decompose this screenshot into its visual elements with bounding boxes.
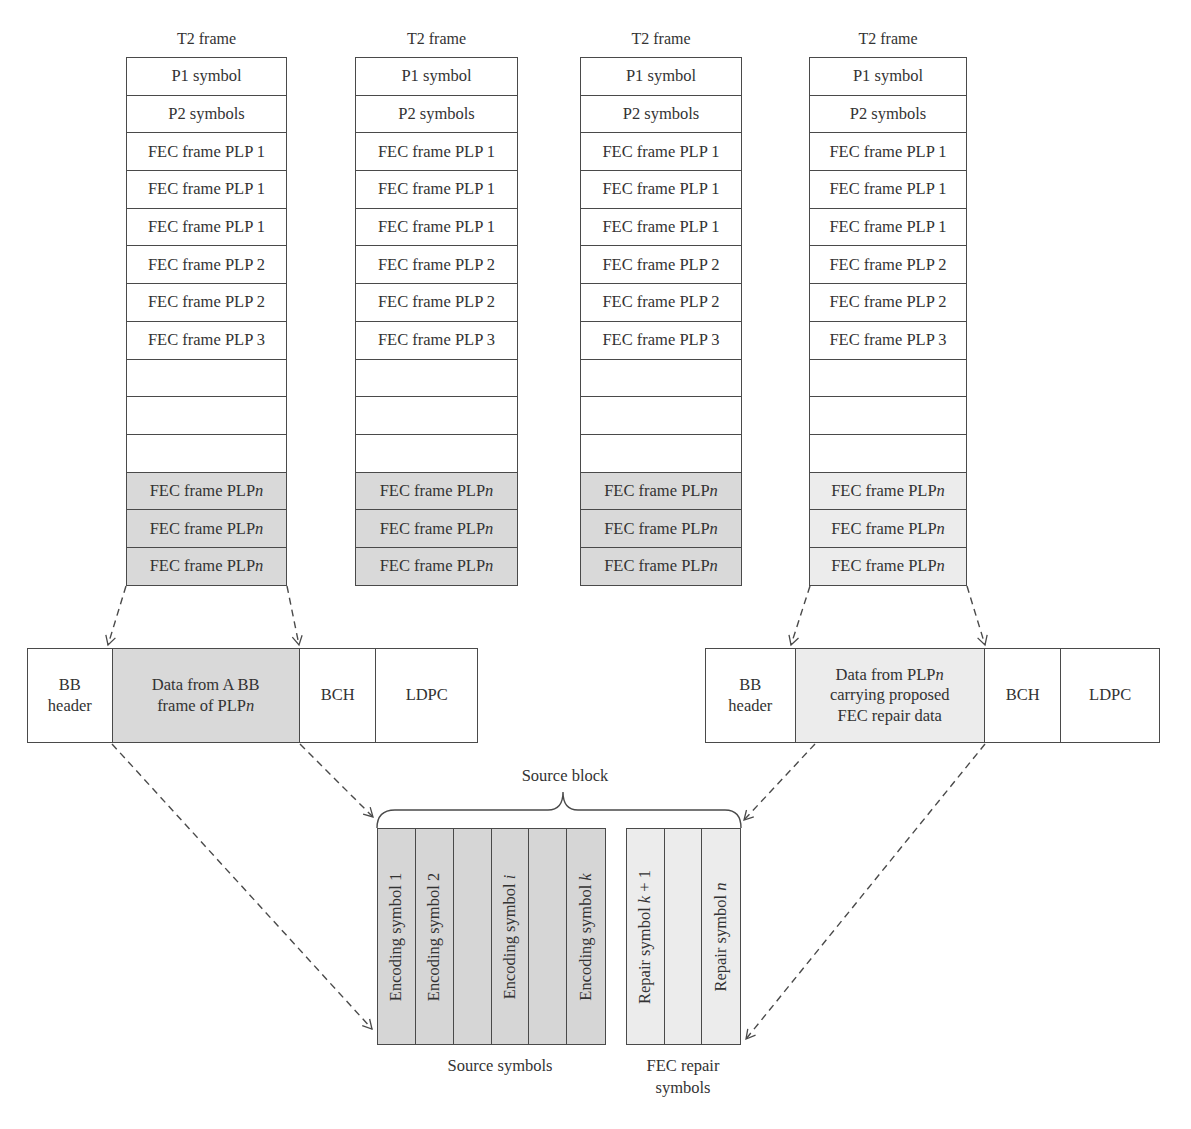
- cell-label: P1 symbol: [626, 66, 696, 86]
- t2-frame-empty-cell: [810, 397, 966, 435]
- t2-frame-cell: P1 symbol: [127, 58, 286, 96]
- t2-frame-cell: FEC frame PLPn: [127, 548, 286, 586]
- t2-frame-cell: FEC frame PLP 2: [810, 246, 966, 284]
- cell-label-suffix: n: [937, 556, 945, 576]
- source-symbol-k: Encoding symbol k: [567, 829, 605, 1044]
- cell-label: FEC frame PLP 2: [148, 292, 265, 312]
- cell-label: FEC frame PLP: [380, 519, 485, 539]
- repair-symbols-block: Repair symbol k + 1 Repair symbol n: [626, 828, 741, 1045]
- cell-label: FEC frame PLP 3: [602, 330, 719, 350]
- source-symbol-i: Encoding symbol i: [492, 829, 530, 1044]
- ldpc-cell: LDPC: [376, 649, 477, 742]
- t2-frame-cell: FEC frame PLP 2: [356, 284, 517, 322]
- bch-label: BCH: [1006, 685, 1040, 706]
- t2-frame-cell: FEC frame PLP 2: [127, 284, 286, 322]
- cell-label: FEC frame PLP: [150, 481, 255, 501]
- cell-label-suffix: n: [485, 556, 493, 576]
- t2-frame-empty-cell: [810, 360, 966, 398]
- source-symbol-label: Encoding symbol i: [500, 874, 520, 999]
- arrow-bb-right-to-repair-bottom: [746, 744, 985, 1039]
- cell-label: FEC frame PLP: [604, 556, 709, 576]
- arrow-bb-left-to-source-bottom: [112, 744, 372, 1029]
- t2-frame-empty-cell: [127, 360, 286, 398]
- t2-frame-cell: FEC frame PLP 1: [127, 171, 286, 209]
- cell-label: FEC frame PLP 1: [148, 217, 265, 237]
- t2-frame-cell: P2 symbols: [127, 96, 286, 134]
- source-symbol-label: Encoding symbol 1: [386, 872, 406, 1000]
- cell-label: P1 symbol: [171, 66, 241, 86]
- t2-frame-title-1: T2 frame: [126, 30, 287, 48]
- t2-frame-cell: FEC frame PLP 1: [810, 133, 966, 171]
- cell-label-suffix: n: [485, 481, 493, 501]
- t2-frame-cell: FEC frame PLP 3: [810, 322, 966, 360]
- cell-label: FEC frame PLP: [604, 481, 709, 501]
- cell-label: FEC frame PLP: [380, 481, 485, 501]
- bb-header-line1: BB: [739, 675, 761, 694]
- t2-frame-cell: FEC frame PLP 3: [127, 322, 286, 360]
- cell-label: FEC frame PLP 1: [378, 142, 495, 162]
- bb-data-line2: carrying proposed: [830, 685, 950, 704]
- t2-frame-cell: FEC frame PLPn: [810, 473, 966, 511]
- cell-label: FEC frame PLP 2: [378, 292, 495, 312]
- arrow-col4-left: [791, 586, 810, 645]
- t2-frame-empty-cell: [810, 435, 966, 473]
- t2-frame-cell: FEC frame PLPn: [810, 510, 966, 548]
- cell-label: FEC frame PLP: [831, 519, 936, 539]
- source-symbol-gap: [454, 829, 492, 1044]
- bb-frame-right: BBheader Data from PLPncarrying proposed…: [705, 648, 1160, 743]
- cell-label: FEC frame PLP 2: [378, 255, 495, 275]
- repair-symbol-k-plus-1: Repair symbol k + 1: [627, 829, 665, 1044]
- t2-frame-cell: FEC frame PLP 1: [356, 171, 517, 209]
- bb-data-line2: frame of PLP: [157, 696, 246, 715]
- source-symbol-label: Encoding symbol k: [576, 873, 596, 1000]
- cell-label: FEC frame PLP 2: [602, 255, 719, 275]
- arrow-col1-left: [108, 586, 126, 645]
- arrow-col1-right: [287, 586, 299, 645]
- ldpc-label: LDPC: [1089, 685, 1131, 706]
- t2-frame-cell: P2 symbols: [356, 96, 517, 134]
- source-symbol-1: Encoding symbol 1: [378, 829, 416, 1044]
- cell-label: FEC frame PLP 1: [378, 217, 495, 237]
- t2-frame-cell: FEC frame PLP 1: [127, 209, 286, 247]
- bb-header-line1: BB: [59, 675, 81, 694]
- t2-frame-cell: P2 symbols: [581, 96, 741, 134]
- cell-label: P2 symbols: [168, 104, 245, 124]
- t2-frame-cell: FEC frame PLP 1: [581, 171, 741, 209]
- t2-frame-cell: FEC frame PLP 1: [810, 209, 966, 247]
- bb-header-cell: BBheader: [28, 649, 113, 742]
- t2-frame-cell: FEC frame PLP 2: [581, 246, 741, 284]
- cell-label: P2 symbols: [623, 104, 700, 124]
- cell-label: FEC frame PLP 1: [829, 142, 946, 162]
- bb-header-line2: header: [48, 696, 92, 715]
- t2-frame-cell: FEC frame PLP 1: [810, 171, 966, 209]
- t2-frame-cell: FEC frame PLP 1: [127, 133, 286, 171]
- cell-label: FEC frame PLP 2: [829, 292, 946, 312]
- bb-data-n: n: [936, 665, 944, 684]
- arrow-col4-right: [967, 586, 985, 645]
- arrow-bb-right-to-repair-top: [744, 744, 815, 820]
- t2-frame-empty-cell: [127, 397, 286, 435]
- source-symbols-block: Encoding symbol 1 Encoding symbol 2 Enco…: [377, 828, 606, 1045]
- t2-frame-cell: P1 symbol: [581, 58, 741, 96]
- t2-frame-empty-cell: [127, 435, 286, 473]
- source-symbol-2: Encoding symbol 2: [416, 829, 454, 1044]
- cell-label: FEC frame PLP 1: [829, 217, 946, 237]
- bb-header-cell: BBheader: [706, 649, 796, 742]
- bb-data-line1: Data from PLP: [836, 665, 936, 684]
- t2-frame-empty-cell: [356, 435, 517, 473]
- cell-label: P2 symbols: [850, 104, 927, 124]
- cell-label: FEC frame PLP 3: [148, 330, 265, 350]
- t2-frame-cell: FEC frame PLPn: [581, 473, 741, 511]
- cell-label-suffix: n: [485, 519, 493, 539]
- ldpc-cell: LDPC: [1061, 649, 1159, 742]
- cell-label-suffix: n: [710, 481, 718, 501]
- cell-label: P2 symbols: [398, 104, 475, 124]
- repair-symbol-n: Repair symbol n: [702, 829, 740, 1044]
- bch-cell: BCH: [300, 649, 377, 742]
- cell-label-suffix: n: [255, 481, 263, 501]
- t2-frame-empty-cell: [356, 397, 517, 435]
- t2-frame-cell: FEC frame PLP 1: [581, 209, 741, 247]
- t2-frame-cell: P2 symbols: [810, 96, 966, 134]
- bb-header-line2: header: [728, 696, 772, 715]
- bb-data-cell: Data from A BBframe of PLPn: [113, 649, 300, 742]
